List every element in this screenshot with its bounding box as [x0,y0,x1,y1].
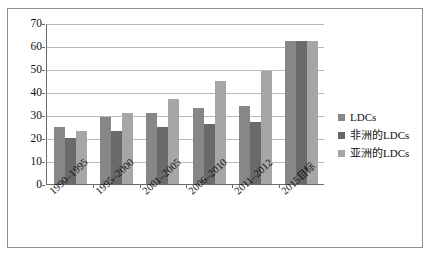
y-axis-tick-label: 30 [31,110,43,122]
y-axis-tick-mark [42,185,45,186]
y-axis-tick-mark [42,162,45,163]
legend-item: 非洲的LDCs [338,127,424,143]
y-axis-tick-mark [42,116,45,117]
legend-swatch-icon [338,132,345,139]
legend-swatch-icon [338,114,345,121]
y-axis-tick-label: 20 [31,133,43,145]
y-axis-tick-label: 70 [31,18,43,30]
y-axis: 010203040506070 [8,24,42,185]
plot-area [46,24,324,185]
y-axis-tick-label: 40 [31,87,43,99]
y-axis-tick-mark [42,139,45,140]
y-axis-tick-mark [42,24,45,25]
legend-item: LDCs [338,109,424,125]
bar [296,41,307,184]
legend-item-label: 亚洲的LDCs [350,148,409,159]
bar-group [285,24,318,184]
bars-layer [47,24,324,184]
y-axis-tick-label: 10 [31,156,43,168]
chart-frame: 010203040506070 1990–19951995–20002001–2… [7,8,423,248]
legend-swatch-icon [338,150,345,157]
chart-legend: LDCs非洲的LDCs亚洲的LDCs [338,109,424,163]
legend-item-label: 非洲的LDCs [350,130,409,141]
y-axis-tick-label: 50 [31,64,43,76]
plot-inner [46,24,324,185]
y-axis-tick-label: 60 [31,41,43,53]
bar [285,41,296,184]
y-axis-tick-mark [42,70,45,71]
y-axis-tick-mark [42,93,45,94]
legend-item-label: LDCs [350,112,376,123]
y-axis-tick-mark [42,47,45,48]
legend-item: 亚洲的LDCs [338,145,424,161]
x-axis: 1990–19951995–20002001–20052006–20102011… [46,185,324,245]
